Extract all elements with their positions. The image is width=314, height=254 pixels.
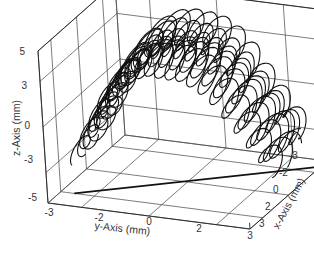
z-axis-ticks: 5 3 0 -3 -5 xyxy=(19,46,37,203)
x-tick: 3 xyxy=(259,218,265,229)
y-tick: -3 xyxy=(45,207,54,218)
grid-line xyxy=(123,105,314,131)
z-axis-label: z-Axis (mm) xyxy=(10,100,22,156)
y-axis-label: y-Axis (mm) xyxy=(94,219,151,237)
grid-line xyxy=(61,192,263,218)
3d-line-chart: 5 3 0 -3 -5 -3 -2 0 2 3 -3 -2 0 2 3 z-Ax… xyxy=(0,0,314,254)
y-tick: 2 xyxy=(196,223,202,234)
z-tick: 0 xyxy=(24,120,30,131)
z-tick: 5 xyxy=(19,46,25,57)
z-tick: -3 xyxy=(24,154,33,165)
box-edge xyxy=(38,51,48,203)
box-edge xyxy=(115,0,314,9)
x-tick: 2 xyxy=(265,201,271,212)
z-tick: 3 xyxy=(21,80,27,91)
y-tick: 3 xyxy=(247,230,253,241)
x-tick: -3 xyxy=(289,150,298,161)
z-tick: -5 xyxy=(28,192,37,203)
x-tick: 0 xyxy=(273,184,279,195)
x-tick: -2 xyxy=(279,167,288,178)
